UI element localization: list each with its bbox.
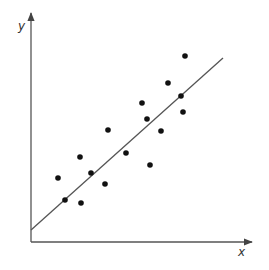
data-point — [165, 80, 171, 86]
data-point — [178, 93, 184, 99]
plot-area — [0, 0, 269, 270]
data-point — [147, 162, 153, 168]
data-point — [158, 128, 164, 134]
data-point — [55, 175, 61, 181]
data-point — [102, 181, 108, 187]
data-point — [180, 109, 186, 115]
data-point — [105, 127, 111, 133]
data-point — [182, 53, 188, 59]
trend-line — [31, 58, 223, 230]
data-point — [144, 116, 150, 122]
data-point — [62, 197, 68, 203]
data-points — [55, 53, 188, 206]
data-point — [78, 200, 84, 206]
scatter-chart: y x — [0, 0, 269, 270]
data-point — [77, 154, 83, 160]
data-point — [123, 150, 129, 156]
data-point — [139, 100, 145, 106]
x-axis-label: x — [238, 246, 245, 258]
y-axis-label: y — [18, 20, 25, 32]
data-point — [88, 170, 94, 176]
